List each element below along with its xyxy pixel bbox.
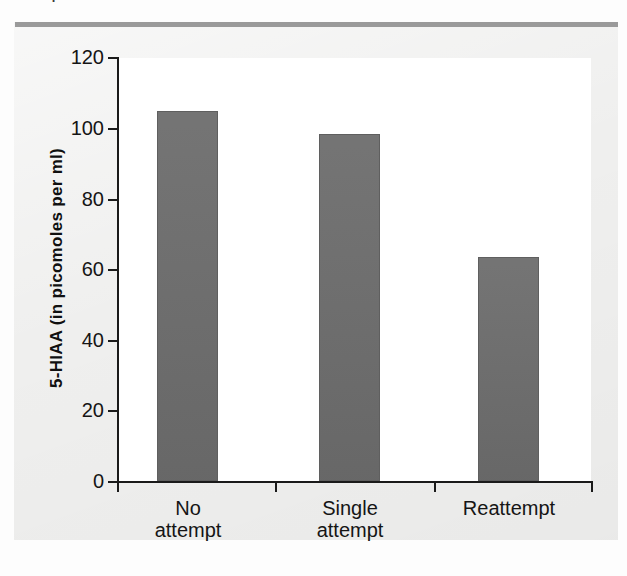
x-tick-end	[591, 481, 593, 492]
y-axis-title: 5-HIAA (in picomoles per ml)	[47, 78, 67, 458]
bar-single-attempt[interactable]	[319, 134, 380, 481]
y-tick-label-120: 120	[28, 47, 104, 67]
x-label-reattempt: Reattempt	[447, 497, 571, 519]
x-label-line-1: No	[136, 497, 240, 519]
y-tick-80	[108, 199, 118, 201]
x-tick-sep-2	[434, 481, 436, 492]
y-tick-100	[108, 128, 118, 130]
x-label-line-2: attempt	[136, 519, 240, 541]
x-axis-line	[117, 481, 593, 483]
y-tick-40	[108, 340, 118, 342]
x-label-line-1: Single	[296, 497, 404, 519]
figure-top-rule	[15, 22, 618, 27]
y-tick-120	[108, 57, 118, 59]
bar-no-attempt[interactable]	[157, 111, 218, 481]
y-tick-20	[108, 410, 118, 412]
y-tick-label-0: 0	[28, 471, 104, 491]
bar-reattempt[interactable]	[478, 257, 539, 481]
y-tick-60	[108, 269, 118, 271]
scanned-page: attempted. 120 100 80 60 40 20 0 No atte…	[0, 0, 627, 576]
x-label-single-attempt: Single attempt	[296, 497, 404, 542]
x-tick-start	[117, 481, 119, 492]
x-tick-sep-1	[275, 481, 277, 492]
x-label-line-1: Reattempt	[447, 497, 571, 519]
cropped-caption-text: attempted.	[16, 0, 316, 5]
x-label-no-attempt: No attempt	[136, 497, 240, 542]
x-label-line-2: attempt	[296, 519, 404, 541]
